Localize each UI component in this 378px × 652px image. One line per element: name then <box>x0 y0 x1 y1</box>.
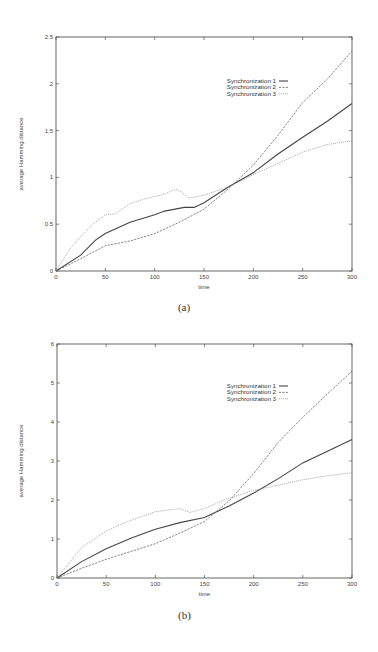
x-tick-label: 300 <box>347 581 358 587</box>
plot-frame <box>56 37 352 271</box>
y-tick-label: 1 <box>51 536 55 542</box>
series-line-1 <box>56 104 352 272</box>
x-tick-label: 0 <box>55 581 59 587</box>
y-axis-label: average Hamming distance <box>18 424 24 498</box>
y-tick-label: 2 <box>51 497 55 503</box>
figure-caption: (a) <box>178 301 191 314</box>
y-tick-label: 2 <box>50 81 54 87</box>
x-tick-label: 150 <box>199 274 210 280</box>
x-tick-label: 50 <box>103 581 110 587</box>
series-line-3 <box>57 473 352 578</box>
series-line-2 <box>56 51 352 271</box>
legend-label: Synchronization 3 <box>227 90 277 97</box>
y-tick-label: 5 <box>51 380 55 386</box>
legend-label: Synchronization 3 <box>227 395 277 402</box>
figure-caption: (b) <box>178 609 191 622</box>
y-tick-label: 1 <box>50 174 54 180</box>
x-tick-label: 50 <box>102 274 109 280</box>
x-tick-label: 300 <box>347 274 358 280</box>
y-tick-label: 0 <box>51 575 55 581</box>
x-axis-label: time <box>198 284 210 290</box>
x-tick-label: 100 <box>150 274 161 280</box>
chart-a: 05010015020025030000.511.522.5timeaverag… <box>18 34 358 314</box>
chart-b: 0501001502002503000123456timeaverage Ham… <box>18 341 358 622</box>
legend: Synchronization 1Synchronization 2Synchr… <box>227 77 288 97</box>
x-tick-label: 100 <box>150 581 161 587</box>
y-tick-label: 0 <box>50 268 54 274</box>
y-tick-label: 1.5 <box>45 128 54 134</box>
series-line-2 <box>57 371 352 578</box>
x-tick-label: 200 <box>249 581 260 587</box>
x-tick-label: 0 <box>54 274 58 280</box>
x-tick-label: 250 <box>298 581 309 587</box>
y-tick-label: 6 <box>51 341 55 347</box>
y-tick-label: 3 <box>51 458 55 464</box>
y-axis-label: average Hamming distance <box>18 117 24 191</box>
series-line-3 <box>56 141 352 271</box>
y-tick-label: 0.5 <box>45 221 54 227</box>
y-tick-label: 2.5 <box>45 34 54 40</box>
figure-canvas: 05010015020025030000.511.522.5timeaverag… <box>0 0 378 652</box>
x-tick-label: 200 <box>248 274 259 280</box>
y-tick-label: 4 <box>51 419 55 425</box>
x-tick-label: 250 <box>298 274 309 280</box>
x-axis-label: time <box>199 591 211 597</box>
x-tick-label: 150 <box>199 581 210 587</box>
legend: Synchronization 1Synchronization 2Synchr… <box>227 382 288 402</box>
